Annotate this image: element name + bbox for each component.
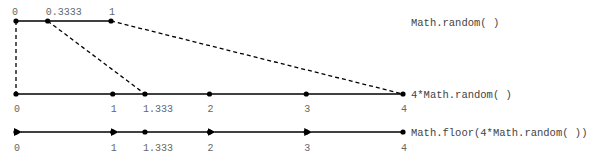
math-random-tick-label: 0 <box>12 7 18 18</box>
scaled-tick-label: 3 <box>304 104 310 115</box>
mapping-dashed-line <box>48 21 145 94</box>
scaled-tick-label: 0 <box>14 104 20 115</box>
number-line-diagram: 00.33331Math.random( )011.3332344*Math.r… <box>0 0 597 165</box>
floor-expression-label: Math.floor(4*Math.random( )) <box>411 127 587 139</box>
scaled-point <box>142 91 147 96</box>
scaled-expression-label: 4*Math.random( ) <box>411 89 512 101</box>
floor-tick-label: 1 <box>111 143 117 154</box>
floor-tick-label: 3 <box>304 143 310 154</box>
floor-tick-label: 2 <box>208 143 214 154</box>
floor-tick-label: 1.333 <box>143 143 173 154</box>
math-random-tick-label: 0.3333 <box>46 7 82 18</box>
floor-tick-label: 0 <box>14 143 20 154</box>
floor-point <box>110 129 115 134</box>
floor-point <box>13 129 18 134</box>
math-random-tick-label: 1 <box>109 7 115 18</box>
scaled-tick-label: 1.333 <box>143 104 173 115</box>
scaled-point <box>400 91 405 96</box>
floor-point <box>400 129 405 134</box>
floor-point <box>304 129 309 134</box>
math-random-point <box>108 18 113 23</box>
math-random-point <box>45 18 50 23</box>
scaled-point <box>13 91 18 96</box>
scaled-tick-label: 2 <box>208 104 214 115</box>
floor-point <box>207 129 212 134</box>
scaled-point <box>304 91 309 96</box>
math-random-expression-label: Math.random( ) <box>411 17 499 29</box>
floor-point <box>142 129 147 134</box>
mapping-dashed-line <box>111 21 403 94</box>
scaled-tick-label: 4 <box>401 104 407 115</box>
floor-tick-label: 4 <box>401 143 407 154</box>
math-random-point <box>13 18 18 23</box>
scaled-point <box>207 91 212 96</box>
scaled-point <box>110 91 115 96</box>
scaled-tick-label: 1 <box>111 104 117 115</box>
